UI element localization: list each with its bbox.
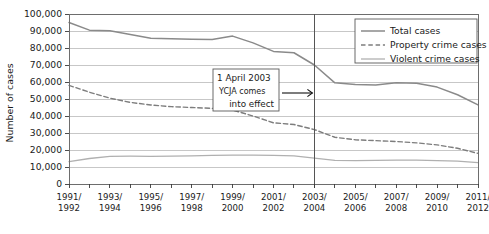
y-tick-label: 20,000 <box>30 144 62 155</box>
y-tick-label: 10,000 <box>30 161 62 172</box>
x-tick-label-line1: 2011/ <box>466 192 489 202</box>
x-tick-label-line1: 2005/ <box>343 192 368 202</box>
y-tick-label: 60,000 <box>30 76 62 87</box>
legend-label-total-cases: Total cases <box>389 25 440 36</box>
x-tick-label-line2: 1992 <box>58 203 80 213</box>
x-tick-label-line2: 2006 <box>344 203 366 213</box>
x-tick-label-line2: 2010 <box>426 203 448 213</box>
x-tick-label-line1: 1997/ <box>179 192 204 202</box>
y-axis-title: Number of cases <box>4 63 15 142</box>
legend-label-violent-crime-cases: Violent crime cases <box>390 53 480 64</box>
x-tick-label-line1: 2001/ <box>261 192 286 202</box>
y-tick-label: 30,000 <box>30 127 62 138</box>
annotation-line-3: into effect <box>229 99 274 109</box>
x-tick-label-line1: 2009/ <box>425 192 450 202</box>
x-tick-label-line1: 2007/ <box>384 192 409 202</box>
y-axis-tickmarks <box>65 14 69 184</box>
y-tick-label: 0 <box>56 178 62 189</box>
chart-svg: 010,00020,00030,00040,00050,00060,00070,… <box>0 0 489 234</box>
x-tick-label-line1: 1995/ <box>138 192 163 202</box>
y-tick-label: 100,000 <box>24 8 62 19</box>
legend-label-property-crime-cases: Property crime cases <box>390 39 487 50</box>
ycja-annotation-callout: 1 April 2003 YCJA comes into effect <box>213 69 312 111</box>
x-tick-label-line2: 2002 <box>263 203 285 213</box>
x-tick-label-line2: 1996 <box>140 203 162 213</box>
x-tick-label-line2: 2008 <box>385 203 407 213</box>
x-tick-label-line1: 1999/ <box>220 192 245 202</box>
x-tick-label-line2: 2004 <box>303 203 325 213</box>
annotation-line-1: 1 April 2003 <box>217 73 271 83</box>
right-arrow-icon <box>282 89 312 96</box>
y-tick-label: 50,000 <box>30 93 62 104</box>
x-tick-label-line1: 1991/ <box>57 192 82 202</box>
y-tick-label: 90,000 <box>30 25 62 36</box>
annotation-line-2: YCJA comes <box>218 87 265 96</box>
y-axis-tick-labels: 010,00020,00030,00040,00050,00060,00070,… <box>24 8 62 189</box>
chart-legend: Total casesProperty crime casesViolent c… <box>355 19 487 64</box>
x-tick-label-line1: 2003/ <box>302 192 327 202</box>
x-axis-tick-labels: 1991/19921993/19941995/19961997/19981999… <box>57 192 489 213</box>
x-tick-label-line2: 2000 <box>222 203 244 213</box>
x-tick-label-line2: 1998 <box>181 203 203 213</box>
x-tick-label-line2: 2012 <box>467 203 489 213</box>
series-line-violent-crime-cases <box>69 155 478 162</box>
x-tick-label-line2: 1994 <box>99 203 121 213</box>
y-tick-label: 80,000 <box>30 42 62 53</box>
x-tick-label-line1: 1993/ <box>98 192 123 202</box>
x-axis-tickmarks <box>69 184 478 188</box>
y-tick-label: 70,000 <box>30 59 62 70</box>
y-tick-label: 40,000 <box>30 110 62 121</box>
youth-court-cases-line-chart: 010,00020,00030,00040,00050,00060,00070,… <box>0 0 489 234</box>
